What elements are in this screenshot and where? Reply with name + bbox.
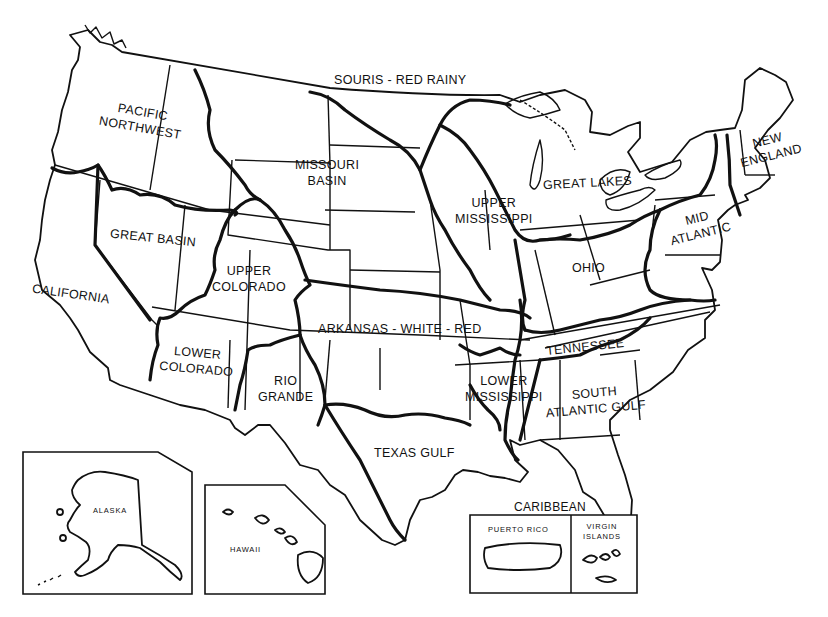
label-line: GRANDE xyxy=(258,389,313,405)
label-line: LOWER xyxy=(465,373,543,389)
label-upper-mississippi: UPPER MISSISSIPPI xyxy=(455,195,533,227)
label-puerto-rico: PUERTO RICO xyxy=(488,525,549,535)
label-missouri-basin: MISSOURI BASIN xyxy=(295,157,359,189)
label-upper-colorado: UPPER COLORADO xyxy=(212,263,286,295)
label-line: COLORADO xyxy=(212,279,286,295)
label-lower-mississippi: LOWER MISSISSIPPI xyxy=(465,373,543,405)
label-rio-grande: RIO GRANDE xyxy=(258,373,313,405)
label-texas-gulf: TEXAS GULF xyxy=(374,445,455,461)
hawaii-inset-frame xyxy=(205,485,325,594)
label-souris-red-rainy: SOURIS - RED RAINY xyxy=(334,72,467,88)
alaska-inset-frame xyxy=(23,452,192,594)
label-arkansas-white-red: ARKANSAS - WHITE - RED xyxy=(318,321,482,337)
label-line: MISSISSIPPI xyxy=(455,211,533,227)
label-line: BASIN xyxy=(295,173,359,189)
label-line: VIRGIN xyxy=(583,522,621,532)
us-water-regions-map xyxy=(0,0,828,617)
label-line: UPPER xyxy=(212,263,286,279)
label-line: ISLANDS xyxy=(583,532,621,542)
label-line: RIO xyxy=(258,373,313,389)
label-line: MISSOURI xyxy=(295,157,359,173)
label-line: UPPER xyxy=(455,195,533,211)
label-lower-colorado: LOWER COLORADO xyxy=(159,342,235,380)
great-lakes-water xyxy=(505,92,681,210)
label-virgin-islands: VIRGIN ISLANDS xyxy=(583,522,621,542)
label-line: MISSISSIPPI xyxy=(465,389,543,405)
label-ohio: OHIO xyxy=(572,260,605,276)
label-alaska: ALASKA xyxy=(93,506,127,516)
label-hawaii: HAWAII xyxy=(230,545,261,555)
label-caribbean: CARIBBEAN xyxy=(514,499,586,515)
